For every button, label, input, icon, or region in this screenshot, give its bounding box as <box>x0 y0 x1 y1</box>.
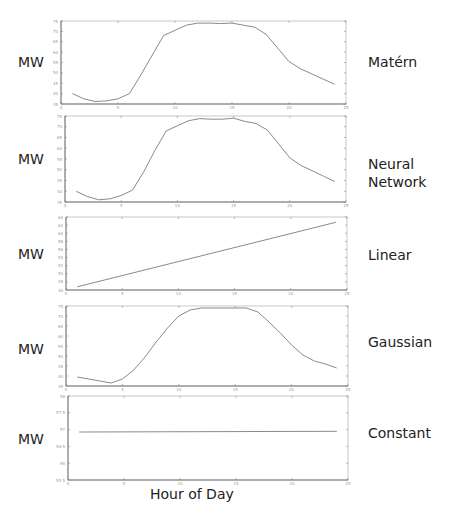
y-tick-label: 70 <box>57 124 63 129</box>
model-label-constant: Constant <box>368 424 431 442</box>
model-label-line: Network <box>368 173 426 191</box>
y-tick-label: 55 <box>58 344 64 349</box>
chart-linear: 464850525456586062640510152025 <box>66 217 347 290</box>
model-label-line: Gaussian <box>368 334 432 350</box>
y-tick-label: 35 <box>53 102 59 107</box>
x-tick-label: 0 <box>67 481 70 486</box>
y-tick-label: 55 <box>57 157 63 162</box>
model-label-line: Linear <box>368 247 412 263</box>
x-tick-label: 20 <box>286 105 292 110</box>
y-tick-label: 75 <box>53 19 59 24</box>
x-tick-label: 15 <box>229 105 235 110</box>
y-tick-label: 70 <box>58 314 64 319</box>
y-tick-label: 40 <box>53 91 59 96</box>
y-tick-label: 52 <box>58 263 64 268</box>
y-tick-label: 40 <box>58 374 64 379</box>
y-tick-label: 45 <box>58 364 64 369</box>
x-tick-label: 0 <box>64 203 67 208</box>
chart-matern: 3540455055606570750510152025 <box>61 21 346 104</box>
x-axis-label: Hour of Day <box>150 486 234 502</box>
y-tick-label: 64 <box>58 215 64 220</box>
data-line <box>76 118 335 200</box>
y-tick-label: 65 <box>53 39 59 44</box>
data-line <box>77 222 336 286</box>
y-tick-label: 65 <box>58 324 64 329</box>
x-tick-label: 10 <box>175 203 181 208</box>
x-tick-label: 5 <box>121 387 124 392</box>
y-tick-label: 45 <box>57 178 63 183</box>
chart-constant: 55.55656.55757.5580510152025 <box>68 396 348 480</box>
model-label-linear: Linear <box>368 246 412 264</box>
plot-frame <box>61 21 346 104</box>
y-tick-label: 62 <box>58 223 64 228</box>
plot-frame <box>65 116 346 202</box>
y-tick-label: 54 <box>58 255 64 260</box>
x-tick-label: 0 <box>60 105 63 110</box>
x-tick-label: 5 <box>117 105 120 110</box>
y-tick-label: 60 <box>58 334 64 339</box>
y-tick-label: 57 <box>60 427 66 432</box>
model-label-neural-network: Neural Network <box>368 155 426 191</box>
x-tick-label: 15 <box>233 481 239 486</box>
y-tick-label: 56.5 <box>56 444 65 449</box>
x-tick-label: 10 <box>176 387 182 392</box>
x-tick-label: 25 <box>343 203 349 208</box>
x-tick-label: 5 <box>123 481 126 486</box>
data-line <box>72 23 334 101</box>
y-tick-label: 35 <box>58 384 64 389</box>
x-tick-label: 20 <box>288 291 294 296</box>
y-tick-label: 56 <box>58 247 64 252</box>
x-tick-label: 15 <box>232 291 238 296</box>
y-tick-label: 55.5 <box>56 478 65 483</box>
y-tick-label: 40 <box>57 189 63 194</box>
model-label-line: Neural <box>368 155 426 173</box>
y-axis-label: MW <box>18 341 44 357</box>
plot-frame <box>66 306 348 386</box>
y-tick-label: 45 <box>53 81 59 86</box>
x-tick-label: 15 <box>231 203 237 208</box>
y-tick-label: 60 <box>58 231 64 236</box>
x-tick-label: 5 <box>120 203 123 208</box>
y-axis-label: MW <box>18 54 44 70</box>
y-axis-label: MW <box>18 151 44 167</box>
y-axis-label: MW <box>18 246 44 262</box>
y-tick-label: 48 <box>58 279 64 284</box>
y-tick-label: 50 <box>58 354 64 359</box>
y-tick-label: 46 <box>58 288 64 293</box>
y-tick-label: 58 <box>60 394 66 399</box>
x-tick-label: 20 <box>287 203 293 208</box>
y-tick-label: 50 <box>58 271 64 276</box>
x-tick-label: 25 <box>345 481 351 486</box>
x-tick-label: 25 <box>345 387 351 392</box>
plot-frame <box>68 396 348 480</box>
model-label-line: Constant <box>368 425 431 441</box>
y-tick-label: 60 <box>53 50 59 55</box>
x-tick-label: 10 <box>176 291 182 296</box>
y-tick-label: 60 <box>57 146 63 151</box>
y-tick-label: 57.5 <box>56 410 65 415</box>
x-tick-label: 20 <box>289 481 295 486</box>
data-line <box>79 431 337 432</box>
y-tick-label: 58 <box>58 239 64 244</box>
y-axis-label: MW <box>18 431 44 447</box>
y-tick-label: 35 <box>57 200 63 205</box>
y-tick-label: 65 <box>57 135 63 140</box>
x-tick-label: 10 <box>172 105 178 110</box>
y-tick-label: 50 <box>53 70 59 75</box>
data-line <box>77 308 336 383</box>
y-tick-label: 55 <box>53 60 59 65</box>
x-tick-label: 5 <box>121 291 124 296</box>
y-tick-label: 75 <box>57 114 63 119</box>
x-tick-label: 0 <box>65 291 68 296</box>
x-tick-label: 20 <box>289 387 295 392</box>
y-tick-label: 50 <box>57 167 63 172</box>
chart-neural-network: 3540455055606570750510152025 <box>65 116 346 202</box>
x-tick-label: 25 <box>344 291 350 296</box>
model-label-matern: Matérn <box>368 53 417 71</box>
y-tick-label: 70 <box>53 29 59 34</box>
y-tick-label: 56 <box>60 461 66 466</box>
model-label-line: Matérn <box>368 54 417 70</box>
x-tick-label: 15 <box>233 387 239 392</box>
model-label-gaussian: Gaussian <box>368 333 432 351</box>
x-tick-label: 25 <box>343 105 349 110</box>
